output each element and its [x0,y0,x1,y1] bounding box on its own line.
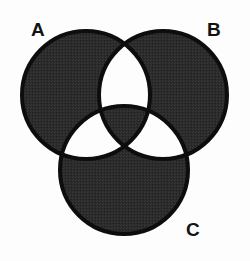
set-label-b: B [207,20,221,39]
set-label-a: A [31,20,45,39]
set-label-c: C [186,220,200,239]
venn-diagram: A B C [0,0,250,261]
